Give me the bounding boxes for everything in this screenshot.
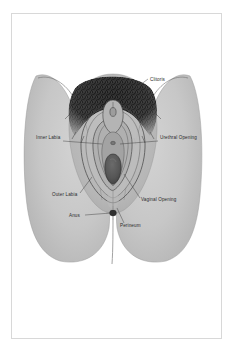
anatomy-diagram: Clitoris Inner Labia Urethral Opening Ou… (12, 14, 223, 340)
label-urethral-opening: Urethral Opening (160, 135, 197, 140)
label-vaginal-opening: Vaginal Opening (141, 197, 177, 202)
label-anus: Anus (69, 213, 81, 218)
label-outer-labia: Outer Labia (52, 192, 78, 197)
urethral-opening-mark (111, 141, 116, 144)
label-perineum: Perineum (120, 223, 141, 228)
clitoris-glans (110, 108, 116, 117)
figure-frame: Clitoris Inner Labia Urethral Opening Ou… (11, 13, 222, 339)
clipped-text-above-frame: · · · (0, 0, 235, 4)
label-inner-labia: Inner Labia (36, 135, 61, 140)
label-clitoris: Clitoris (150, 77, 166, 82)
